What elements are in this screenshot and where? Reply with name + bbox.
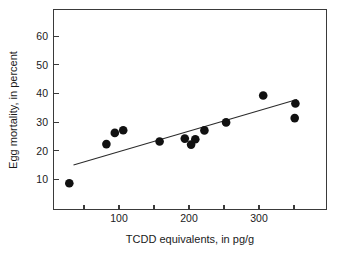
y-tick-label-50: 50	[36, 59, 48, 71]
x-tick-label-300: 300	[250, 212, 268, 224]
chart-canvas: 60 50 40 30 20 10 100 200 300	[0, 0, 345, 254]
y-tick-label-60: 60	[36, 30, 48, 42]
data-point	[191, 135, 200, 144]
data-point	[259, 91, 268, 100]
y-tick-label-10: 10	[36, 173, 48, 185]
data-point	[181, 134, 190, 143]
x-axis-title: TCDD equivalents, in pg/g	[126, 233, 254, 245]
data-point	[65, 179, 74, 188]
data-points	[65, 91, 300, 187]
x-tick-label-100: 100	[110, 212, 128, 224]
y-tick-label-20: 20	[36, 145, 48, 157]
data-point	[200, 126, 209, 135]
data-point	[155, 137, 164, 146]
data-point	[102, 140, 111, 149]
y-axis-ticks	[54, 36, 59, 179]
data-point	[291, 99, 300, 108]
scatter-plot-figure: 60 50 40 30 20 10 100 200 300	[0, 0, 345, 254]
x-axis-ticks	[84, 205, 294, 210]
y-tick-label-30: 30	[36, 116, 48, 128]
data-point	[119, 126, 128, 135]
y-tick-label-40: 40	[36, 87, 48, 99]
plot-frame	[54, 10, 327, 210]
y-axis-tick-labels: 60 50 40 30 20 10	[36, 30, 48, 185]
data-point	[111, 129, 120, 138]
data-point	[222, 118, 231, 127]
x-axis-tick-labels: 100 200 300	[110, 212, 268, 224]
x-tick-label-200: 200	[180, 212, 198, 224]
y-axis-title: Egg mortality, in percent	[7, 51, 19, 169]
data-point	[290, 114, 299, 123]
trend-line	[74, 100, 298, 166]
